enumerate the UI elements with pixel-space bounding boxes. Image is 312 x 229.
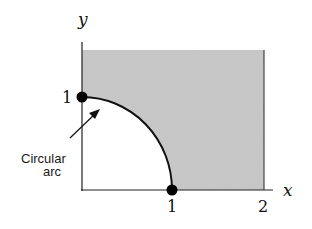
point-1-0 <box>167 185 178 196</box>
x-tick-1: 1 <box>167 197 177 216</box>
point-0-1 <box>77 92 88 103</box>
annotation-arrow-shaft <box>70 113 96 138</box>
y-tick-1: 1 <box>62 88 72 107</box>
annotation-label-line2: arc <box>43 164 62 179</box>
shaded-region <box>82 50 264 190</box>
x-axis-label: x <box>283 180 293 200</box>
diagram-canvas: y x 1 1 2 Circular arc <box>0 0 312 229</box>
x-tick-2: 2 <box>258 197 268 216</box>
y-axis-label: y <box>77 9 88 29</box>
